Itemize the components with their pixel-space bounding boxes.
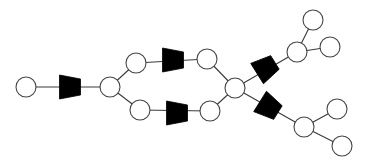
node-J xyxy=(320,37,340,57)
node-D xyxy=(197,49,217,69)
node-H xyxy=(287,42,307,62)
node-G xyxy=(225,78,245,98)
node-E xyxy=(130,100,150,120)
node-C xyxy=(126,53,146,73)
node-I xyxy=(303,10,323,30)
trapezoid-T5 xyxy=(254,91,285,122)
node-A xyxy=(16,77,36,97)
node-K xyxy=(294,117,314,137)
node-L xyxy=(327,99,347,119)
trapezoid-T2 xyxy=(163,48,184,72)
node-B xyxy=(100,77,120,97)
trapezoid-T3 xyxy=(167,101,188,125)
trapezoid-T4 xyxy=(251,52,282,83)
node-F xyxy=(200,101,220,121)
node-M xyxy=(332,136,352,156)
trapezoid-T1 xyxy=(60,75,81,99)
molecule-graph-diagram xyxy=(0,0,366,166)
